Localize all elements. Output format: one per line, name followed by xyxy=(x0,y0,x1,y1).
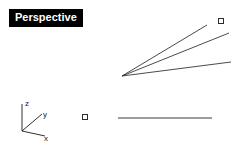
control-point-upper-right[interactable] xyxy=(219,19,224,24)
y-axis-label: y xyxy=(43,110,47,119)
z-axis-label: z xyxy=(25,99,29,108)
geometry-lines xyxy=(118,25,231,118)
world-axes-icon: z y x xyxy=(22,99,48,143)
ray-upper-line[interactable] xyxy=(122,25,207,76)
perspective-viewport[interactable]: Perspective z y x xyxy=(0,0,251,146)
x-axis-line xyxy=(22,131,45,136)
control-point-lower-left[interactable] xyxy=(83,115,88,120)
control-points xyxy=(83,19,224,120)
y-axis-line xyxy=(22,114,42,131)
x-axis-label: x xyxy=(44,134,48,143)
viewport-title-label[interactable]: Perspective xyxy=(9,9,83,27)
